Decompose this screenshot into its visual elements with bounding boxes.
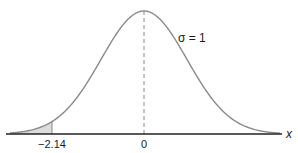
mean-label: 0	[141, 138, 147, 150]
axis-label-x: x	[285, 127, 293, 141]
cutoff-label: −2.14	[38, 138, 66, 150]
bell-curve	[10, 11, 280, 133]
sigma-label: σ = 1	[178, 31, 206, 45]
normal-curve-diagram: −2.14 0 σ = 1 x	[0, 0, 298, 153]
